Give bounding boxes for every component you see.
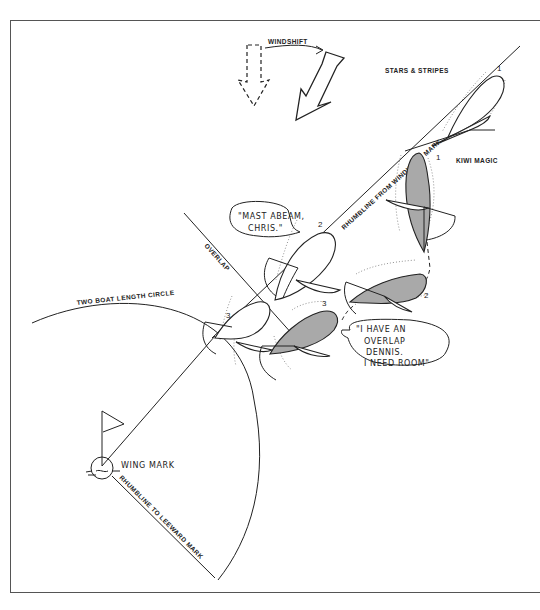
speech-kiwi-line4: I NEED ROOM" [364,359,430,368]
wing-mark-label: WING MARK [121,461,175,470]
speech-kiwi-line1: "I HAVE AN [356,325,406,334]
windshift-curve-arrow-icon [265,45,322,50]
speech-bubble-kiwi: "I HAVE AN OVERLAP DENNIS. I NEED ROOM" [341,319,449,368]
position-number-3: 3 [322,299,327,308]
speech-text-line2: CHRIS." [248,224,283,233]
kiwi-magic-label: KIWI MAGIC [456,157,498,164]
speech-text-line1: "MAST ABEAM, [238,212,305,221]
windshift-label: WINDSHIFT [268,38,308,45]
speech-kiwi-line2: OVERLAP [364,337,405,346]
windshift-indicator: WINDSHIFT [238,38,344,120]
kiwi-magic-position-1: 1 [386,153,455,252]
kiwi-magic-position-2: 2 [344,260,429,314]
wing-mark: WING MARK RHUMBLINE TO LEEWARD MARK [86,336,215,578]
position-number-2: 2 [318,220,323,229]
speech-kiwi-line3: DENNIS. [366,348,403,357]
rhumbline-leeward-label: RHUMBLINE TO LEEWARD MARK [118,474,204,560]
new-wind-arrow-icon [296,52,344,120]
flag-icon [102,411,124,432]
old-wind-arrow-icon [238,45,269,106]
position-number-1: 1 [436,153,441,162]
overlap-label: OVERLAP [203,242,231,272]
speech-bubble-stars: "MAST ABEAM, CHRIS." [230,201,305,236]
stars-stripes-label: STARS & STRIPES [385,67,449,74]
kiwi-magic-position-3: 3 [260,299,356,380]
position-number-3: 3 [226,311,231,320]
position-number-1: 1 [497,64,502,73]
position-number-2: 2 [424,291,429,300]
